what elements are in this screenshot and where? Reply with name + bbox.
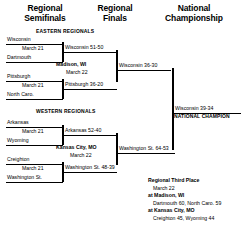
east-semifinal-1-team-bottom: Dartmouth — [6, 54, 63, 63]
third-place-site-2: at Kansas City, MO — [148, 207, 244, 215]
third-place-date: March 22 — [148, 185, 244, 193]
west-semifinal-2-date: March 21 — [22, 165, 44, 172]
west-semifinal-1-date: March 21 — [22, 128, 44, 135]
east-semifinal-1-team-top: Wisconsin — [6, 36, 63, 45]
column-header-line-2: Semifinals — [8, 13, 82, 23]
east-final-date: March 22 — [66, 69, 88, 76]
column-header-line-2: Finals — [82, 13, 148, 23]
regional-third-place-block: Regional Third Place March 22 at Madison… — [148, 177, 244, 223]
region-title-western: WESTERN REGIONALS — [36, 108, 96, 114]
west-semifinal-1-team-top: Arkansas — [6, 119, 63, 128]
west-final-date: March 22 — [70, 152, 92, 159]
west-semifinal-1-result: Arkansas 52-40 — [64, 127, 117, 136]
third-place-title: Regional Third Place — [148, 177, 244, 185]
east-semifinal-2-team-top: Pittsburgh — [6, 73, 63, 82]
west-final-site: Kansas City, MO — [56, 144, 97, 151]
west-final-result: Washington St. 64-53 — [118, 145, 175, 154]
third-place-game-2: Creighton 45, Wyoming 44 — [148, 215, 244, 223]
column-header-regional-semifinals: Regional Semifinals — [8, 3, 82, 23]
third-place-site-1: at Madison, WI — [148, 192, 244, 200]
west-semifinal-2-team-top: Creighton — [6, 156, 63, 165]
column-header-line-1: Regional — [82, 3, 148, 13]
west-semifinal-2-result: Washington St. 48-39 — [64, 164, 117, 173]
national-champion-label: NATIONAL CHAMPION — [174, 113, 230, 119]
column-header-national-championship: National Championship — [146, 3, 242, 23]
column-header-regional-finals: Regional Finals — [82, 3, 148, 23]
west-semifinal-1-team-bottom: Wyoming — [6, 137, 63, 146]
east-final-result: Wisconsin 36-30 — [118, 62, 171, 71]
column-header-line-1: National — [146, 3, 242, 13]
third-place-game-1: Dartmouth 60, North Caro. 59 — [148, 200, 244, 208]
east-semifinal-1-date: March 21 — [22, 45, 44, 52]
west-semifinal-2-team-bottom: Washington St. — [6, 174, 63, 183]
region-title-eastern: EASTERN REGIONALS — [36, 28, 94, 34]
column-header-line-2: Championship — [146, 13, 242, 23]
east-final-site: Madison, WI — [56, 61, 86, 68]
east-semifinal-1-result: Wisconsin 51-50 — [64, 44, 117, 53]
column-header-line-1: Regional — [8, 3, 82, 13]
east-semifinal-2-date: March 21 — [22, 82, 44, 89]
east-semifinal-2-team-bottom: North Caro. — [6, 91, 63, 100]
tournament-bracket: Regional Semifinals Regional Finals Nati… — [0, 0, 246, 237]
east-semifinal-2-result: Pittsburgh 36-20 — [64, 81, 117, 90]
